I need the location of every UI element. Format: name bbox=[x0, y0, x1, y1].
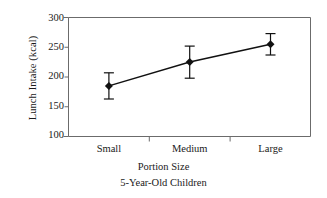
data-point-marker bbox=[186, 58, 194, 66]
data-point-marker bbox=[105, 82, 113, 90]
figure-caption: 5-Year-Old Children bbox=[0, 177, 327, 189]
x-tick-label-large: Large bbox=[258, 143, 282, 155]
x-axis-ticks bbox=[149, 137, 230, 142]
error-bars bbox=[104, 34, 276, 99]
x-tick-label-small: Small bbox=[97, 143, 122, 155]
chart-figure: Lunch Intake (kcal) 300 250 200 150 100 bbox=[0, 0, 327, 198]
y-axis-ticks bbox=[64, 18, 69, 137]
data-point-marker bbox=[267, 40, 275, 48]
x-tick-label-medium: Medium bbox=[172, 143, 208, 155]
x-axis-label: Portion Size bbox=[0, 161, 327, 173]
